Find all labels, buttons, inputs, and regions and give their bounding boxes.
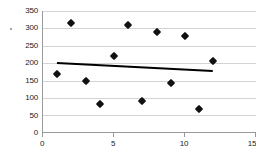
- x-tick-mark: [42, 133, 43, 137]
- scatter-chart: 350 300 250 200 150 100 50 0 0 5 10 15: [0, 0, 256, 162]
- y-tick-label: 0: [8, 129, 38, 137]
- stray-mark: [10, 28, 12, 30]
- y-tick-label: 350: [8, 7, 38, 15]
- x-tick-label: 5: [111, 140, 115, 148]
- x-tick-label: 10: [180, 140, 189, 148]
- y-tick-label: 50: [8, 112, 38, 120]
- gridline-100: [43, 98, 256, 99]
- gridline-250: [43, 46, 256, 47]
- y-tick-label: 200: [8, 59, 38, 67]
- data-point: [96, 100, 104, 108]
- x-tick-label: 0: [40, 140, 44, 148]
- plot-area: [42, 11, 256, 133]
- data-point: [53, 70, 61, 78]
- y-tick-label: 100: [8, 94, 38, 102]
- x-tick-label: 15: [248, 140, 256, 148]
- x-tick-mark: [113, 133, 114, 137]
- gridline-350: [43, 11, 256, 12]
- gridline-150: [43, 81, 256, 82]
- y-axis-labels: 350 300 250 200 150 100 50 0: [6, 0, 38, 140]
- data-point: [67, 19, 75, 27]
- x-tick-mark: [255, 133, 256, 137]
- x-tick-mark: [184, 133, 185, 137]
- y-tick-label: 250: [8, 42, 38, 50]
- x-axis-labels: 0 5 10 15: [0, 140, 256, 152]
- gridline-50: [43, 115, 256, 116]
- gridline-300: [43, 28, 256, 29]
- x-axis-line: [43, 132, 256, 133]
- data-point: [209, 57, 217, 65]
- data-point: [181, 31, 189, 39]
- data-point: [152, 28, 160, 36]
- y-tick-label: 150: [8, 77, 38, 85]
- y-tick-label: 300: [8, 24, 38, 32]
- data-point: [110, 52, 118, 60]
- data-point: [195, 104, 203, 112]
- data-point: [81, 76, 89, 84]
